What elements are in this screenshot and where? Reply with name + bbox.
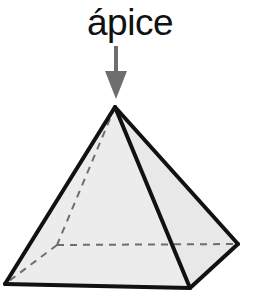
apex-label: ápice: [0, 2, 260, 44]
arrow-shaft: [114, 46, 118, 74]
apex-arrow-icon: [105, 46, 127, 99]
pyramid-figure: ápice: [0, 0, 260, 302]
arrow-head: [105, 71, 127, 99]
pyramid-diagram-svg: [0, 0, 260, 302]
